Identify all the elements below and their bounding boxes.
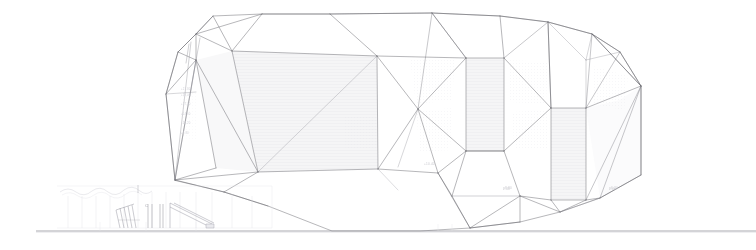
annotation-panel-a: +8.80 2.40 [503, 186, 510, 190]
annotation-left-1: +19.40 [181, 94, 191, 97]
annotation-left-column: +21.80 +19.40 +17.00 +14.60 +12.20 +9.80 [181, 88, 191, 105]
site-elevation-ghost [57, 185, 272, 228]
elevation-drawing [0, 0, 756, 250]
ground-tick-marks [100, 222, 452, 231]
annotation-panel-a-1: 2.40 [503, 187, 510, 191]
ghost-stair-block [116, 204, 140, 228]
ghost-ramp [170, 203, 214, 228]
annotation-left-0: +21.80 [181, 88, 191, 91]
annotation-left-5: +9.80 [181, 132, 191, 135]
annotation-panel-b-1: 2.40 [609, 187, 616, 191]
annotation-panel-b: +6.20 2.40 [609, 186, 616, 190]
site-label-c: C [145, 203, 148, 208]
ground-line-group [36, 231, 756, 232]
annotation-left-3: +14.60 [181, 113, 191, 116]
ghost-frame [57, 186, 272, 228]
annotation-left-2: +17.00 [181, 103, 191, 106]
panel-tower-b [551, 108, 586, 200]
drawing-sheet: +10.40 +21.80 +19.40 +17.00 +14.60 +12.2… [0, 0, 756, 250]
annotation-left-4: +12.20 [181, 122, 191, 125]
panel-tower-a [466, 58, 504, 151]
annotation-center-tag: +10.40 [424, 162, 435, 166]
